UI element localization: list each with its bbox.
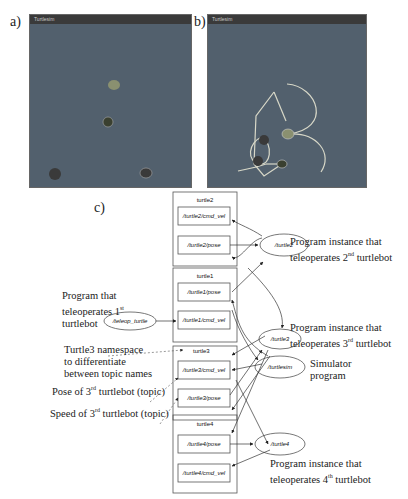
topic-turtle3-pose: /turtle3/pose — [186, 395, 221, 401]
topic-turtle1-pose: /turtle1/pose — [186, 289, 221, 295]
group-box-turtle3 — [173, 346, 237, 420]
annotation-instance-2: Program instance that teleoperates 2nd t… — [290, 236, 392, 264]
topic-turtle4-cmd-vel: /turtle4/cmd_vel — [182, 470, 226, 476]
group-label-turtle1: turtle1 — [197, 273, 214, 279]
group-label-turtle4: turtle4 — [197, 421, 214, 427]
group-box-turtle1 — [173, 268, 237, 342]
annotation-simulator: Simulator program — [310, 358, 351, 382]
topic-turtle1-cmd-vel: /turtle1/cmd_vel — [182, 317, 226, 323]
group-label-turtle3: turtle3 — [193, 348, 210, 354]
annotation-speed-3: Speed of 3rd turtlebot (topic) — [50, 404, 169, 420]
annotation-instance-3: Program instance that teleoperates 3rd t… — [290, 322, 391, 350]
topic-turtle4-pose: /turtle4/pose — [186, 441, 221, 447]
group-box-turtle2 — [173, 192, 237, 266]
annotation-pose-3: Pose of 3rd turtlebot (topic) — [52, 382, 165, 398]
annotation-namespace: Turtle3 namespace to differentiate betwe… — [64, 344, 152, 380]
annotation-instance-4: Program instance that teleoperates 4th t… — [270, 458, 371, 486]
node-turtle3: /turtle3 — [270, 336, 290, 342]
topic-turtle3-cmd-vel: /turtle3/cmd_vel — [182, 367, 226, 373]
topic-turtle2-cmd-vel: /turtle2/cmd_vel — [182, 213, 226, 219]
annotation-teleop-1: Program that teleoperates 1st turtlebot — [62, 290, 124, 330]
node-turtle4: /turtle4 — [270, 441, 290, 447]
group-label-turtle2: turtle2 — [197, 197, 214, 203]
topic-turtle2-pose: /turtle2/pose — [186, 242, 221, 248]
node-turtlesim: /turtlesim — [267, 364, 292, 370]
